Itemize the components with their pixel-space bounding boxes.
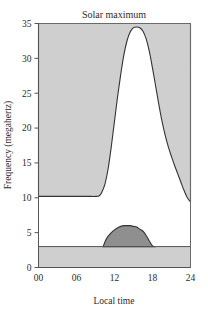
x-tick-label: 06 [72, 273, 82, 283]
lowest-usable-frequency-dome [103, 226, 154, 247]
y-tick-label: 30 [22, 54, 32, 64]
y-tick-label: 20 [22, 123, 32, 133]
y-tick-label: 0 [27, 263, 32, 273]
x-axis-title: Local time [94, 296, 135, 306]
upper-shaded-region [39, 24, 191, 202]
x-tick-label: 12 [110, 273, 120, 283]
y-tick-label: 5 [27, 228, 32, 238]
y-axis-ticks: 05101520253035 [22, 19, 39, 273]
x-tick-label: 18 [148, 273, 158, 283]
x-axis-ticks: 0006121824 [34, 273, 196, 283]
x-tick-label: 00 [34, 273, 44, 283]
y-axis-title: Frequency (megahertz) [3, 101, 14, 189]
x-tick-label: 24 [186, 273, 196, 283]
ground-absorption-band [39, 247, 191, 268]
y-tick-label: 25 [22, 89, 32, 99]
chart-svg: Solar maximum 05101520253035 0006121824 … [0, 0, 208, 314]
chart-figure: Solar maximum 05101520253035 0006121824 … [0, 0, 208, 314]
y-tick-label: 35 [22, 19, 32, 29]
y-tick-label: 10 [22, 193, 32, 203]
y-tick-label: 15 [22, 158, 32, 168]
chart-title: Solar maximum [82, 9, 146, 20]
